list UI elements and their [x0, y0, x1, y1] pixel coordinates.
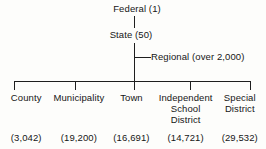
local-levels-bracket-bar [14, 81, 251, 82]
connector-regional-branch [135, 57, 151, 58]
local-level-count: (3,042) [0, 132, 52, 143]
node-label-regional: Regional (over 2,000) [151, 51, 244, 62]
local-level-title: SpecialDistrict [214, 92, 266, 114]
local-level-municipality: Municipality (19,200) [52, 92, 105, 149]
local-level-count: (14,721) [158, 132, 214, 143]
local-level-title: County [0, 92, 52, 103]
connector-federal-to-state [134, 16, 135, 28]
bracket-tick-municipality [75, 81, 76, 90]
node-label-federal: Federal (1) [4, 3, 266, 14]
local-level-town: Town (16,691) [105, 92, 157, 149]
local-level-title: IndependentSchoolDistrict [158, 92, 214, 125]
bracket-tick-school [190, 81, 191, 90]
bracket-tick-special [250, 81, 251, 90]
local-level-special-district: SpecialDistrict (29,532) [214, 92, 266, 149]
connector-state-to-local [134, 43, 135, 82]
local-levels-row: County (3,042) Municipality (19,200) Tow… [0, 92, 266, 149]
local-level-title: Municipality [52, 92, 105, 103]
local-level-count: (19,200) [52, 132, 105, 143]
node-label-state: State (50) [0, 29, 264, 40]
local-level-independent-school-district: IndependentSchoolDistrict (14,721) [158, 92, 214, 149]
bracket-tick-county [14, 81, 15, 90]
local-level-county: County (3,042) [0, 92, 52, 149]
local-level-title: Town [105, 92, 157, 103]
local-level-count: (16,691) [105, 132, 157, 143]
local-level-count: (29,532) [214, 132, 266, 143]
bracket-tick-town [134, 81, 135, 90]
government-hierarchy-diagram: Federal (1) State (50) Regional (over 2,… [0, 0, 266, 149]
